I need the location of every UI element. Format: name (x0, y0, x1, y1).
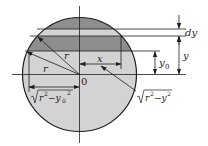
label-y: y (182, 50, 189, 61)
label-dy: dy (185, 27, 197, 38)
sqrt-left-sub: 0 (62, 97, 66, 104)
dy-strip (0, 29, 208, 36)
label-sqrt-right: r 2 −y 2 (137, 90, 172, 103)
top-cap-band (0, 0, 208, 29)
label-y0-subscript: 0 (165, 63, 169, 71)
label-y0: y 0 (158, 57, 169, 71)
diagram-canvas: r r 0 x dy y y 0 r 2 −y 0 2 r 2 −y 2 (0, 0, 208, 146)
sqrt-right-exp2: 2 (167, 90, 171, 97)
label-y0-main: y (158, 57, 165, 68)
label-origin: 0 (81, 76, 87, 87)
sqrt-right-minus-y: −y (154, 93, 168, 103)
sqrt-left-minus-y: −y (48, 93, 62, 103)
sqrt-left-exp2: 2 (67, 89, 71, 96)
circle-section-diagram: r r 0 x dy y y 0 r 2 −y 0 2 r 2 −y 2 (0, 0, 208, 146)
label-x: x (97, 53, 103, 64)
